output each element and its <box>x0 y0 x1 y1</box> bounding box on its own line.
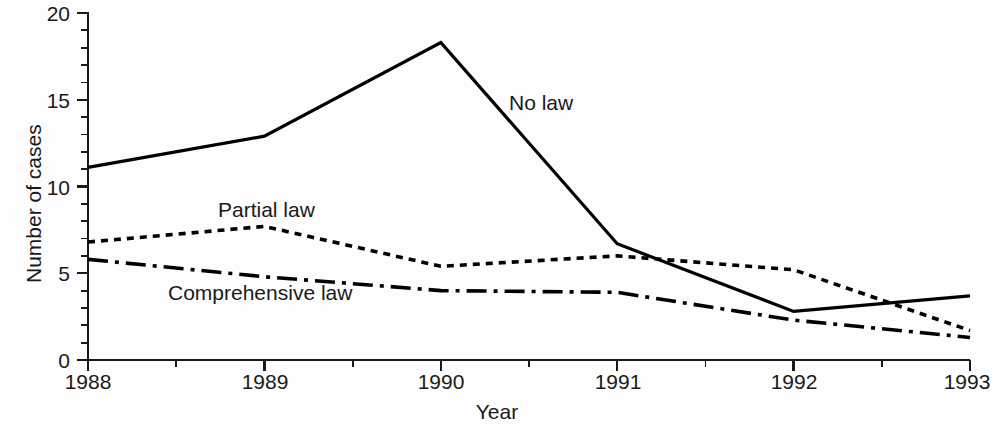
series-label-comprehensive-law: Comprehensive law <box>168 281 352 305</box>
line-chart-figure: 20 15 10 5 0 1988 1989 1990 1991 1992 19… <box>0 0 994 433</box>
x-tick-label-1988: 1988 <box>28 370 148 394</box>
y-tick-label-15: 15 <box>8 89 70 113</box>
chart-plot-area <box>0 0 994 433</box>
axis-group <box>77 12 970 371</box>
x-tick-label-1991: 1991 <box>558 370 678 394</box>
x-tick-label-1989: 1989 <box>205 370 325 394</box>
series-line-partial-law <box>88 226 970 330</box>
x-tick-label-1992: 1992 <box>734 370 854 394</box>
x-axis-title: Year <box>0 400 994 424</box>
x-tick-label-1990: 1990 <box>381 370 501 394</box>
y-tick-label-20: 20 <box>8 2 70 26</box>
x-tick-label-1993: 1993 <box>907 370 994 394</box>
series-label-no-law: No law <box>509 91 573 115</box>
y-axis-title: Number of cases <box>22 124 46 283</box>
series-label-partial-law: Partial law <box>218 198 315 222</box>
